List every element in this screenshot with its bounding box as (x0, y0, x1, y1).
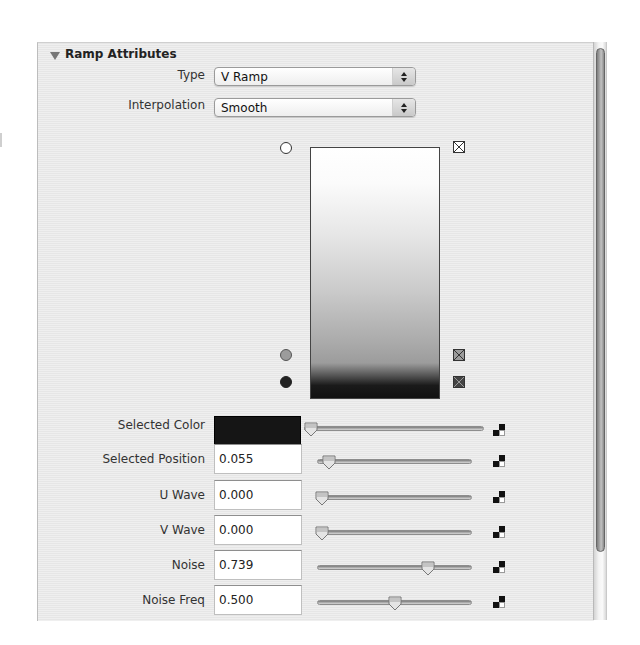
noise-input[interactable]: 0.739 (214, 550, 302, 580)
v-wave-label: V Wave (58, 523, 205, 537)
u-wave-input[interactable]: 0.000 (214, 480, 302, 510)
selected-position-input[interactable]: 0.055 (214, 444, 302, 474)
delete-entry-mid-icon[interactable] (453, 349, 465, 361)
dropdown-arrows-icon (392, 68, 415, 85)
selected-color-label: Selected Color (58, 418, 205, 432)
interpolation-label: Interpolation (78, 98, 205, 112)
v-wave-slider-thumb[interactable] (314, 525, 330, 541)
ramp-gradient-preview[interactable] (310, 147, 440, 399)
noise-label: Noise (58, 558, 205, 572)
delete-entry-top-icon[interactable] (453, 141, 465, 153)
noise-freq-label: Noise Freq (58, 593, 205, 607)
noise-slider-thumb[interactable] (420, 560, 436, 576)
selected-color-swatch[interactable] (214, 416, 301, 445)
window-edge-mark (0, 133, 2, 147)
vertical-scrollbar[interactable] (593, 42, 607, 620)
color-entry-handle-mid[interactable] (280, 349, 292, 361)
selected-color-map-button[interactable] (493, 424, 505, 436)
disclosure-triangle-icon[interactable] (50, 52, 60, 60)
interpolation-dropdown[interactable]: Smooth (214, 98, 416, 117)
v-wave-slider[interactable] (317, 530, 472, 535)
selected-color-slider[interactable] (304, 426, 484, 431)
noise-freq-input[interactable]: 0.500 (214, 585, 302, 615)
noise-freq-map-button[interactable] (493, 596, 505, 608)
color-entry-handle-selected[interactable] (280, 376, 292, 388)
dropdown-arrows-icon (392, 99, 415, 116)
type-dropdown-value: V Ramp (221, 70, 268, 84)
delete-entry-selected-icon[interactable] (453, 376, 465, 388)
noise-map-button[interactable] (493, 561, 505, 573)
u-wave-slider-thumb[interactable] (314, 490, 330, 506)
ramp-attributes-header[interactable]: Ramp Attributes (50, 47, 177, 61)
u-wave-slider[interactable] (317, 495, 472, 500)
v-wave-input[interactable]: 0.000 (214, 515, 302, 545)
u-wave-label: U Wave (58, 488, 205, 502)
v-wave-map-button[interactable] (493, 526, 505, 538)
selected-position-slider-thumb[interactable] (321, 454, 337, 470)
selected-position-slider[interactable] (317, 459, 472, 464)
noise-slider[interactable] (317, 565, 472, 570)
noise-freq-slider-thumb[interactable] (387, 595, 403, 611)
color-entry-handle-top[interactable] (280, 142, 292, 154)
u-wave-map-button[interactable] (493, 491, 505, 503)
section-title: Ramp Attributes (65, 47, 177, 61)
scrollbar-thumb[interactable] (596, 48, 605, 552)
selected-position-map-button[interactable] (493, 455, 505, 467)
interpolation-dropdown-value: Smooth (221, 101, 267, 115)
selected-color-slider-thumb[interactable] (303, 421, 319, 437)
type-label: Type (98, 68, 205, 82)
selected-position-label: Selected Position (58, 452, 205, 466)
attribute-editor-panel: Ramp Attributes Type V Ramp Interpolatio… (37, 42, 594, 621)
type-dropdown[interactable]: V Ramp (214, 67, 416, 86)
